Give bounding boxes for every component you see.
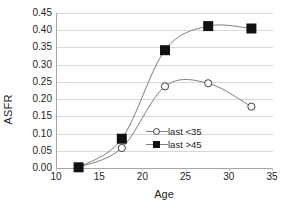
data-point-marker-open-circle: [205, 80, 212, 87]
y-axis-tick-label: 0.40: [16, 25, 52, 35]
x-axis-tick-label: 15: [84, 171, 114, 183]
legend-item: last >45: [146, 139, 202, 151]
x-axis-tick-label: 25: [171, 171, 201, 183]
data-point-marker-open-circle: [248, 103, 255, 110]
y-axis-tick-label: 0.45: [16, 8, 52, 18]
y-axis-tick-label: 0.25: [16, 77, 52, 87]
legend-marker-open-circle: [153, 128, 160, 135]
data-point-marker-filled-square: [246, 24, 256, 34]
y-axis-title: ASFR: [0, 0, 16, 219]
data-point-marker-open-circle: [161, 83, 168, 90]
data-point-marker-filled-square: [203, 21, 213, 31]
y-axis-tick-labels: 0.000.050.100.150.200.250.300.350.400.45: [16, 0, 52, 219]
y-axis-tick-label: 0.15: [16, 111, 52, 121]
x-axis-tick-labels: 101520253035: [0, 171, 283, 185]
x-axis-tick-label: 30: [214, 171, 244, 183]
data-point-marker-open-circle: [118, 144, 125, 151]
legend-marker-filled-square: [153, 141, 160, 148]
x-axis-title: Age: [56, 188, 272, 200]
asfr-by-age-line-chart: ASFR 0.000.050.100.150.200.250.300.350.4…: [0, 0, 283, 219]
x-axis-tick-label: 20: [127, 171, 157, 183]
legend-item: last <35: [146, 126, 202, 138]
y-axis-tick-label: 0.35: [16, 42, 52, 52]
legend: last <35last >45: [146, 126, 202, 151]
legend-filled-square-icon: [146, 139, 168, 151]
y-axis-tick-label: 0.05: [16, 146, 52, 156]
x-axis-tick-label: 10: [41, 171, 71, 183]
legend-item-label: last >45: [168, 139, 202, 151]
data-point-marker-filled-square: [160, 45, 170, 55]
y-axis-tick-label: 0.30: [16, 60, 52, 70]
data-point-marker-filled-square: [117, 134, 127, 144]
y-axis-tick-label: 0.10: [16, 129, 52, 139]
y-axis-tick-label: 0.20: [16, 94, 52, 104]
legend-open-circle-icon: [146, 126, 168, 138]
legend-item-label: last <35: [168, 126, 202, 138]
x-axis-tick-label: 35: [257, 171, 283, 183]
